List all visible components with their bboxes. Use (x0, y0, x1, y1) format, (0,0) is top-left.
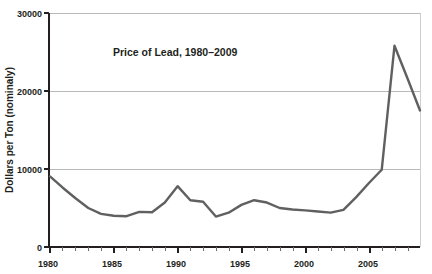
y-tick-label-0: 0 (37, 243, 42, 253)
y-tick-label-10000: 10000 (17, 165, 42, 175)
chart-title: Price of Lead, 1980–2009 (113, 46, 237, 58)
x-tick-labels: 1980 1985 1990 1995 2000 2005 (38, 259, 378, 269)
x-major-ticks (50, 247, 370, 253)
x-tick-label-1990: 1990 (166, 259, 186, 269)
y-tick-label-30000: 30000 (17, 9, 42, 19)
x-tick-label-2000: 2000 (294, 259, 314, 269)
x-tick-label-2005: 2005 (358, 259, 378, 269)
x-tick-label-1995: 1995 (230, 259, 250, 269)
y-axis (44, 13, 49, 247)
gridlines (49, 13, 420, 169)
y-axis-title: Dollars per Ton (nominaly) (4, 67, 15, 193)
data-line-price-of-lead (50, 46, 420, 217)
chart-container: 30000 20000 10000 0 Dollars per Ton (nom… (0, 0, 432, 274)
price-of-lead-line-chart: 30000 20000 10000 0 Dollars per Ton (nom… (0, 0, 432, 274)
y-tick-label-20000: 20000 (17, 87, 42, 97)
x-tick-label-1985: 1985 (102, 259, 122, 269)
x-tick-label-1980: 1980 (38, 259, 58, 269)
y-tick-labels: 30000 20000 10000 0 (17, 9, 42, 253)
